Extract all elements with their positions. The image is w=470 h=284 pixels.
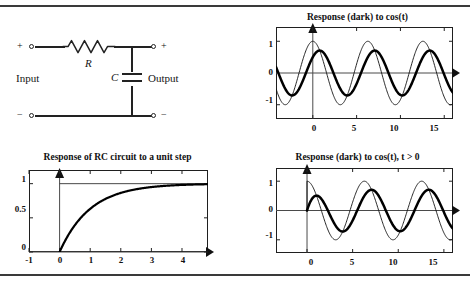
chart-title: Response of RC circuit to a unit step	[0, 152, 235, 162]
ytick-0: 0	[255, 204, 273, 214]
label-input-minus: −	[17, 109, 23, 120]
xtick-0: 0	[303, 257, 319, 267]
capacitor-plate-top	[122, 73, 142, 75]
chart-response-cos-causal: Response (dark) to cos(t), t > 0 1 0 -1 …	[245, 152, 470, 274]
terminal-node-input-minus	[29, 113, 34, 118]
bottom-horizontal-rule	[0, 274, 470, 276]
ytick-neg1: -1	[251, 95, 273, 105]
xtick-5: 5	[344, 257, 360, 267]
xtick-15: 15	[425, 257, 441, 267]
top-horizontal-rule	[0, 5, 470, 7]
plot-curves	[276, 168, 453, 253]
ytick-1: 1	[8, 174, 26, 184]
label-input-plus: +	[17, 40, 23, 51]
label-output-minus: −	[161, 109, 167, 120]
xtick-2: 2	[113, 255, 129, 265]
chart-rc-unit-step: Response of RC circuit to a unit step 1 …	[0, 152, 235, 274]
xtick-10: 10	[386, 123, 402, 133]
xtick-4: 4	[175, 255, 191, 265]
terminal-node-output-plus	[151, 44, 156, 49]
label-input: Input	[16, 72, 39, 84]
xtick-0: 0	[306, 123, 322, 133]
xtick-15: 15	[426, 123, 442, 133]
label-output-plus: +	[161, 40, 167, 51]
wire-top-left	[35, 46, 65, 48]
xtick-3: 3	[144, 255, 160, 265]
wire-top-right	[114, 46, 152, 48]
xtick-0: 0	[52, 255, 68, 265]
xtick-neg1: -1	[21, 255, 37, 265]
terminal-node-output-minus	[151, 113, 156, 118]
label-capacitor: C	[111, 71, 118, 83]
label-resistor: R	[85, 57, 92, 69]
wire-bottom	[35, 115, 152, 117]
plot-curves	[276, 27, 453, 119]
terminal-node-input-plus	[29, 44, 34, 49]
plot-curves	[29, 170, 208, 252]
xtick-5: 5	[346, 123, 362, 133]
ytick-1: 1	[255, 39, 273, 49]
wire-cap-upper	[131, 46, 133, 72]
ytick-neg1: -1	[251, 230, 273, 240]
rc-circuit-diagram: + − + − R C Input Output	[0, 18, 235, 138]
resistor-symbol	[63, 38, 117, 56]
xtick-10: 10	[385, 257, 401, 267]
label-output: Output	[148, 72, 179, 84]
capacitor-plate-bottom	[122, 80, 142, 82]
chart-title: Response (dark) to cos(t), t > 0	[245, 152, 470, 162]
ytick-05: 0.5	[2, 204, 26, 214]
xtick-1: 1	[83, 255, 99, 265]
chart-response-cos-full: Response (dark) to cos(t) 1 0 -1 0 5 10 …	[245, 12, 470, 142]
chart-title: Response (dark) to cos(t)	[245, 12, 470, 22]
ytick-0: 0	[8, 242, 26, 252]
ytick-0: 0	[255, 67, 273, 77]
wire-cap-lower	[131, 86, 133, 116]
ytick-1: 1	[255, 178, 273, 188]
